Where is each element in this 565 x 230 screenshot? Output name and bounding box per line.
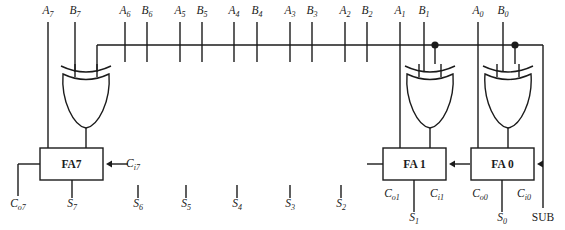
xor-bit-7-body: [63, 74, 109, 128]
input-label-A6: A6: [118, 4, 130, 19]
junction-dot-0: [431, 41, 438, 48]
junction-dot-1: [511, 41, 518, 48]
input-label-A0: A0: [471, 4, 483, 19]
carry-out-label-FA1: Co1: [384, 187, 400, 202]
sum-label-FA7: S7: [67, 197, 78, 212]
input-label-A5: A5: [173, 4, 185, 19]
sum-stub-label-S5: S5: [181, 197, 191, 212]
carry-in-label-FA0: Ci0: [517, 187, 531, 202]
sum-stub-label-S6: S6: [133, 197, 143, 212]
xor-bit-0-xor-arc: [483, 66, 533, 72]
gate-layer: [61, 66, 533, 128]
sum-stub-label-S2: S2: [336, 197, 346, 212]
carry-in-label-FA1: Ci1: [430, 187, 444, 202]
xor-bit-7-xor-arc: [61, 66, 111, 72]
xor-bit-0-body: [485, 74, 531, 128]
input-label-B0: B0: [497, 4, 508, 19]
adder-label-FA7: FA7: [61, 158, 81, 170]
input-label-B5: B5: [196, 4, 207, 19]
input-label-A7: A7: [41, 4, 54, 19]
xor-bit-1-body: [407, 74, 453, 128]
circuit-svg: A7B7A6B6A5B5A4B4A3B3A2B2A1B1A0B0FA7Ci7Co…: [0, 0, 565, 230]
carry-in-arrow-FA1-head: [449, 161, 455, 168]
adder-label-FA1: FA 1: [403, 158, 426, 170]
sum-stub-label-S3: S3: [285, 197, 295, 212]
sum-stub-label-S4: S4: [232, 197, 242, 212]
input-label-B6: B6: [141, 4, 152, 19]
carry-in-label-FA7: Ci7: [126, 157, 141, 172]
carry-out-label-FA7: Co7: [10, 197, 27, 212]
sum-label-FA1: S1: [409, 211, 419, 226]
sum-label-FA0: S0: [497, 211, 507, 226]
input-label-A4: A4: [227, 4, 239, 19]
circuit-diagram-figure: A7B7A6B6A5B5A4B4A3B3A2B2A1B1A0B0FA7Ci7Co…: [0, 0, 565, 230]
xor-bit-1-xor-arc: [405, 66, 455, 72]
carry-in-arrow-FA0-head: [537, 161, 543, 168]
carry-out-label-FA0: Co0: [472, 187, 488, 202]
input-label-B3: B3: [306, 4, 317, 19]
input-label-A1: A1: [393, 4, 405, 19]
input-label-B1: B1: [418, 4, 429, 19]
adder-label-FA0: FA 0: [491, 158, 514, 170]
sub-control-label: SUB: [532, 211, 555, 223]
carry-in-arrow-FA7-head: [106, 161, 112, 168]
input-label-A2: A2: [338, 4, 350, 19]
input-label-B7: B7: [69, 4, 81, 19]
input-label-B4: B4: [251, 4, 262, 19]
input-label-A3: A3: [283, 4, 295, 19]
input-label-B2: B2: [361, 4, 372, 19]
